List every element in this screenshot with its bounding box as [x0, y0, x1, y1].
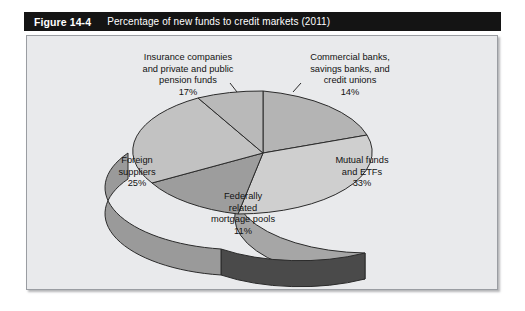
slice-label-line-2: suppliers	[118, 167, 155, 177]
slice-label-line-1: Insurance companies	[144, 52, 232, 62]
slice-label-mutual-funds: Mutual funds and ETFs 33%	[309, 155, 415, 190]
slice-label-line-3: credit unions	[324, 75, 377, 85]
slice-label-line-2: and private and public	[143, 64, 234, 74]
slice-label-line-1: Federally	[224, 191, 262, 201]
slice-percent-commercial-banks: 14%	[280, 87, 420, 99]
slice-percent-mutual-funds: 33%	[309, 178, 415, 190]
slice-label-line-1: Commercial banks,	[310, 52, 390, 62]
figure-container: Figure 14-4 Percentage of new funds to c…	[0, 0, 525, 311]
slice-label-line-2: and ETFs	[342, 167, 382, 177]
chart-panel: Insurance companies and private and publ…	[26, 35, 498, 290]
slice-label-mortgage-pools: Federally related mortgage pools 11%	[185, 191, 301, 237]
slice-label-line-2: related	[229, 203, 257, 213]
slice-label-line-3: mortgage pools	[211, 214, 275, 224]
slice-label-line-3: pension funds	[159, 75, 217, 85]
slice-label-commercial-banks: Commercial banks, savings banks, and cre…	[280, 52, 420, 98]
slice-label-line-2: savings banks, and	[310, 64, 390, 74]
slice-label-line-1: Foreign	[121, 155, 153, 165]
slice-percent-insurance-pension: 17%	[113, 87, 263, 99]
slice-label-line-1: Mutual funds	[335, 155, 388, 165]
figure-title: Percentage of new funds to credit market…	[107, 16, 330, 27]
figure-caption-bar: Figure 14-4 Percentage of new funds to c…	[24, 12, 501, 31]
slice-label-insurance-pension: Insurance companies and private and publ…	[113, 52, 263, 98]
slice-percent-foreign-suppliers: 25%	[85, 178, 189, 190]
slice-percent-mortgage-pools: 11%	[185, 226, 301, 238]
slice-label-foreign-suppliers: Foreign suppliers 25%	[85, 155, 189, 190]
figure-number: Figure 14-4	[34, 16, 91, 28]
